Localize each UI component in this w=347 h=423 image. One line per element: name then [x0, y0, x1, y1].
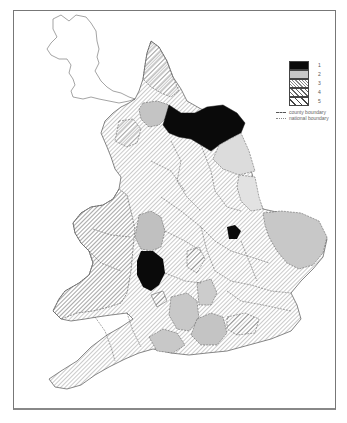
- map-frame: 1 2 3 4 5 county boundary national bound…: [13, 10, 336, 410]
- wales: [53, 189, 135, 319]
- legend-label-2: 2: [318, 70, 321, 79]
- scotland-outline: [47, 15, 135, 103]
- legend-label-5: 5: [318, 97, 321, 106]
- legend-swatch-4: [289, 88, 309, 97]
- legend-national-boundary: national boundary: [276, 115, 347, 121]
- dotted-line-icon: [276, 118, 286, 119]
- legend-swatch-1: [289, 61, 309, 70]
- legend-swatch-3: [289, 79, 309, 88]
- legend-label-1: 1: [318, 61, 321, 70]
- legend-label-4: 4: [318, 88, 321, 97]
- dashed-line-icon: [276, 112, 286, 113]
- county-class2-shropshire: [135, 211, 165, 251]
- legend-swatch-2: [289, 70, 309, 79]
- legend-label-3: 3: [318, 79, 321, 88]
- legend-swatch-5: [289, 97, 309, 106]
- legend-item-5: 5: [289, 97, 347, 107]
